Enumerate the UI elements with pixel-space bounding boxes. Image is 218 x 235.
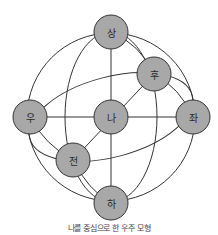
diagram-caption: 나를 중심으로 한 우주 모형 (0, 222, 218, 233)
node-right-label: 우 (13, 100, 47, 134)
node-bottom-label: 하 (94, 186, 128, 220)
node-left-label: 좌 (176, 100, 210, 134)
node-back-label: 후 (137, 57, 171, 91)
node-top-label: 상 (94, 15, 128, 49)
node-center-label: 나 (94, 100, 128, 134)
node-front-label: 전 (56, 143, 90, 177)
